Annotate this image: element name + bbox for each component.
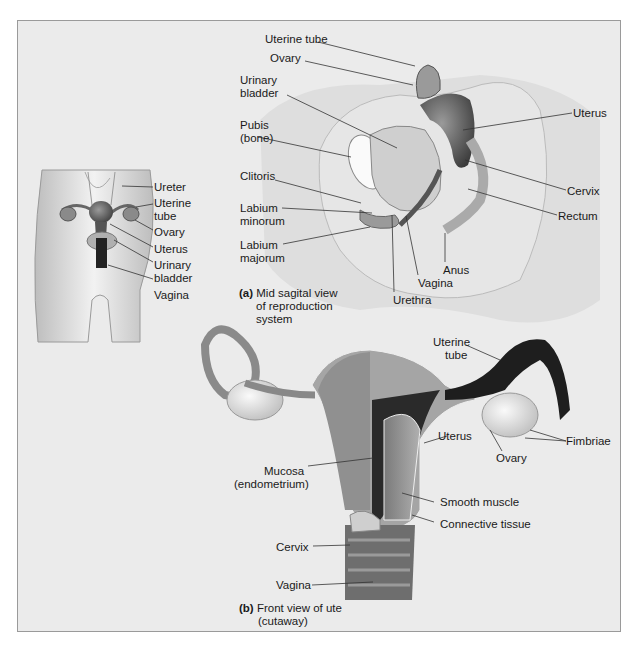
label-labium-majorum-2: majorum [240,252,285,265]
inset-label-uterine-tube: Uterine [154,197,191,210]
label-anus: Anus [443,264,469,277]
label-b-connective-tissue: Connective tissue [440,518,531,531]
label-labium-minorum: Labium [240,202,278,215]
label-rectum: Rectum [558,210,598,223]
inset-label-ureter: Ureter [154,181,186,194]
label-pubis: Pubis [240,119,269,132]
label-pubis-2: (bone) [240,132,273,145]
panel-a-caption-line-1: Mid sagital view [256,287,337,299]
label-urethra: Urethra [393,294,431,307]
label-b-ovary: Ovary [496,452,527,465]
label-uterine-tube: Uterine tube [265,33,328,46]
inset-torso-illustration [35,170,154,342]
label-b-uterine-tube-2: tube [445,349,467,362]
anatomy-illustration [0,0,638,655]
inset-label-ovary: Ovary [154,226,185,239]
label-b-uterus: Uterus [438,430,472,443]
label-vagina: Vagina [418,277,453,290]
label-urinary-bladder: Urinary [240,74,277,87]
label-clitoris: Clitoris [240,170,275,183]
inset-label-uterine-tube-2: tube [154,210,176,223]
panel-a-caption-line-3: system [239,313,292,325]
panel-b-caption-line-1: Front view of ute [257,602,342,614]
inset-label-urinary-bladder-2: bladder [154,272,192,285]
label-b-mucosa: Mucosa [264,465,304,478]
label-ovary: Ovary [270,52,301,65]
label-b-cervix: Cervix [276,541,309,554]
label-b-fimbriae: Fimbriae [566,435,611,448]
label-uterus: Uterus [573,107,607,120]
label-cervix: Cervix [567,185,600,198]
label-b-mucosa-2: (endometrium) [234,478,309,491]
label-labium-majorum: Labium [240,239,278,252]
panel-a-caption-line-2: of reproduction [239,300,333,312]
panel-b-tag: (b) [239,602,254,614]
inset-label-vagina: Vagina [154,289,189,302]
panel-b-caption: (b) Front view of ute (cutaway) [239,602,342,628]
panel-b-caption-line-2: (cutaway) [239,615,308,627]
label-b-uterine-tube: Uterine [433,336,470,349]
label-b-vagina: Vagina [276,579,311,592]
label-urinary-bladder-2: bladder [240,87,278,100]
panel-a-tag: (a) [239,287,253,299]
inset-label-uterus: Uterus [154,243,188,256]
label-b-smooth-muscle: Smooth muscle [440,496,519,509]
inset-label-urinary-bladder: Urinary [154,259,191,272]
panel-a-caption: (a) Mid sagital view of reproduction sys… [239,287,337,326]
label-labium-minorum-2: minorum [240,215,285,228]
